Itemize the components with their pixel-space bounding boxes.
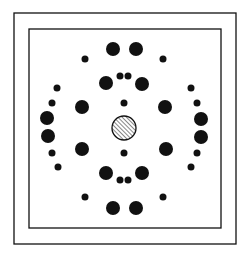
small-spot — [194, 100, 201, 107]
small-spot — [125, 177, 132, 184]
large-spot — [129, 201, 143, 215]
large-spot — [129, 42, 143, 56]
small-spot — [121, 100, 128, 107]
small-spot — [160, 194, 167, 201]
small-spot — [54, 85, 61, 92]
small-spot — [117, 177, 124, 184]
large-spot — [99, 166, 113, 180]
small-spot — [82, 194, 89, 201]
small-spot — [49, 150, 56, 157]
large-spot — [135, 77, 149, 91]
small-spot — [160, 56, 167, 63]
large-spot — [159, 142, 173, 156]
small-spot — [117, 73, 124, 80]
small-spot — [49, 100, 56, 107]
small-spot — [121, 150, 128, 157]
large-spot — [194, 112, 208, 126]
large-spot — [75, 142, 89, 156]
small-spot — [55, 164, 62, 171]
large-spot — [135, 166, 149, 180]
large-spot — [106, 42, 120, 56]
small-spot — [188, 85, 195, 92]
center-beam-hatched-disc — [112, 116, 136, 140]
small-spot — [82, 56, 89, 63]
small-spot — [125, 73, 132, 80]
large-spot — [99, 76, 113, 90]
large-spot — [194, 130, 208, 144]
large-spot — [75, 100, 89, 114]
small-spot — [188, 164, 195, 171]
large-spot — [158, 100, 172, 114]
large-spot — [106, 201, 120, 215]
diffraction-pattern-diagram — [0, 0, 248, 255]
large-spot — [41, 129, 55, 143]
large-spot — [40, 111, 54, 125]
small-spot — [194, 150, 201, 157]
